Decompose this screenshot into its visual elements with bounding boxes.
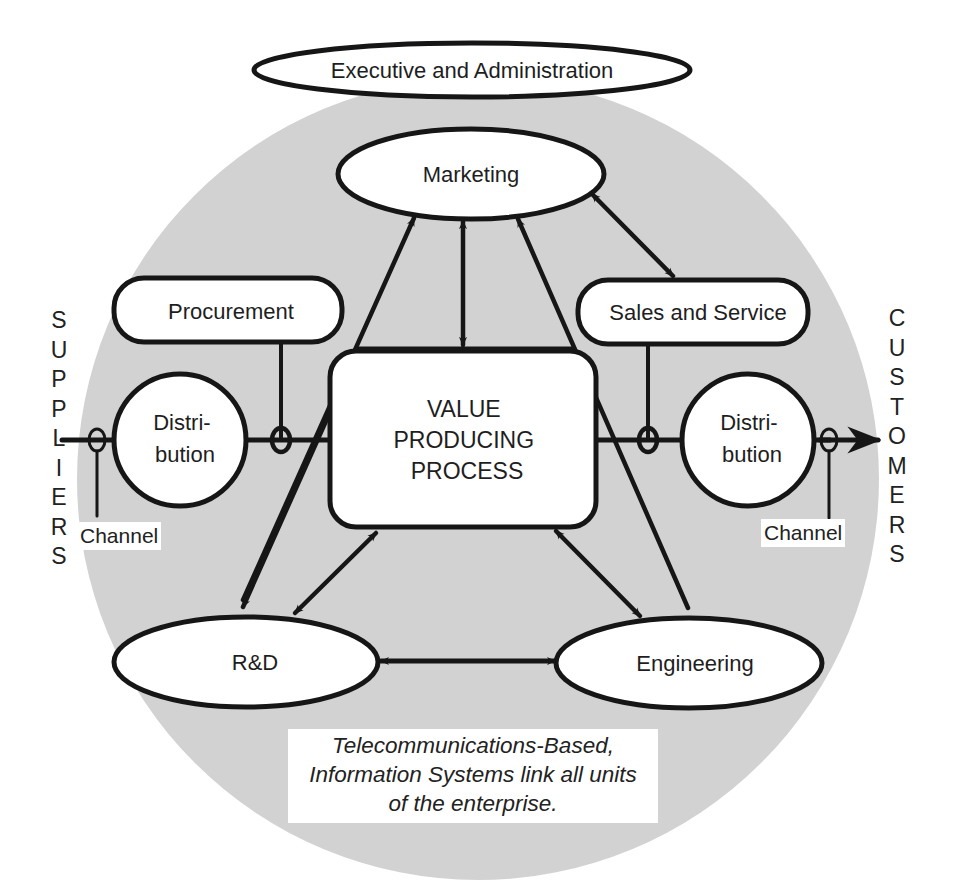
- customers-letter: E: [882, 481, 912, 511]
- caption-box: Telecommunications-Based, Information Sy…: [288, 729, 658, 823]
- executive-label: Executive and Administration: [331, 58, 614, 83]
- suppliers-letter: P: [44, 395, 74, 425]
- customers-letter: U: [882, 334, 912, 364]
- suppliers-letter: R: [44, 513, 74, 543]
- customers-letter: O: [882, 422, 912, 452]
- marketing-label: Marketing: [423, 162, 520, 187]
- customers-letter: S: [882, 540, 912, 570]
- suppliers-letter: P: [44, 365, 74, 395]
- suppliers-letter: U: [44, 336, 74, 366]
- procurement-label: Procurement: [168, 299, 294, 324]
- suppliers-label: S U P P L I E R S: [44, 306, 74, 572]
- customers-letter: M: [882, 452, 912, 482]
- channel-label-right: Channel: [761, 519, 845, 547]
- customers-letter: R: [882, 511, 912, 541]
- caption-line: of the enterprise.: [288, 789, 658, 818]
- distribution-left-node: [114, 374, 246, 506]
- distribution-right-node: [682, 374, 814, 506]
- caption-line: Telecommunications-Based,: [288, 731, 658, 760]
- suppliers-letter: L: [44, 424, 74, 454]
- caption-line: Information Systems link all units: [288, 760, 658, 789]
- rnd-label: R&D: [232, 650, 278, 675]
- suppliers-letter: I: [44, 454, 74, 484]
- customers-letter: C: [882, 304, 912, 334]
- channel-label-left: Channel: [77, 522, 161, 550]
- suppliers-letter: E: [44, 483, 74, 513]
- engineering-label: Engineering: [636, 651, 753, 676]
- customers-label: C U S T O M E R S: [882, 304, 912, 570]
- suppliers-letter: S: [44, 306, 74, 336]
- suppliers-letter: S: [44, 542, 74, 572]
- customers-letter: S: [882, 363, 912, 393]
- sales-label: Sales and Service: [609, 300, 786, 325]
- customers-letter: T: [882, 393, 912, 423]
